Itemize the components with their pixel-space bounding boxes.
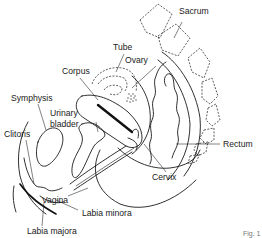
label-bladder: bladder [50,119,79,129]
figure-caption: Fig. 1 [243,230,261,238]
label-rectum: Rectum [223,139,253,149]
tube-ovary [92,68,137,103]
label-cervix: Cervix [152,172,177,182]
label-ovary: Ovary [125,55,149,65]
label-tube: Tube [113,42,132,52]
label-sacrum: Sacrum [179,6,209,16]
labels: Sacrum Tube Ovary Corpus Symphysis Urina… [4,6,261,238]
label-clitoris: Clitoris [4,129,30,139]
label-corpus: Corpus [62,66,90,76]
label-symphysis: Symphysis [11,93,53,103]
sacrum-vertebrae [140,4,220,164]
label-vagina: Vagina [42,195,68,205]
label-labia-majora: Labia majora [27,226,77,236]
symphysis-pubis [36,128,62,166]
label-urinary: Urinary [50,108,78,118]
label-labia-minora: Labia minora [82,208,132,218]
anatomy-diagram: Sacrum Tube Ovary Corpus Symphysis Urina… [0,0,262,238]
vaginal-walls [70,146,134,190]
peritoneal-lines [95,76,200,207]
